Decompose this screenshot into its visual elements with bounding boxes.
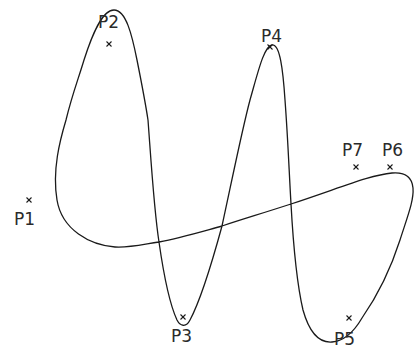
spline-curve [55,10,413,342]
x-marker-icon [181,315,186,320]
x-marker-icon [388,165,393,170]
spline-diagram: P1 P2 P3 P4 P5 P6 P7 [0,0,419,357]
point-label: P5 [334,329,355,349]
point-p2: P2 [98,12,119,47]
point-p4: P4 [261,26,282,50]
point-label: P6 [382,140,403,160]
point-label: P2 [98,12,119,32]
x-marker-icon [354,165,359,170]
x-marker-icon [107,42,112,47]
x-marker-icon [347,316,352,321]
point-label: P1 [14,209,35,229]
point-p7: P7 [342,140,363,170]
point-label: P4 [261,26,282,46]
x-marker-icon [27,198,32,203]
point-p1: P1 [14,198,35,230]
point-label: P7 [342,140,363,160]
point-p6: P6 [382,140,403,170]
point-p3: P3 [171,315,192,347]
point-p5: P5 [334,316,355,350]
point-label: P3 [171,326,192,346]
